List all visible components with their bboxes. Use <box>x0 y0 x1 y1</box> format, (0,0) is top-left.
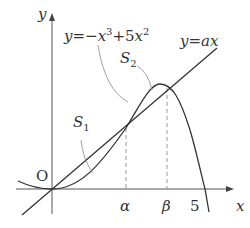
line-y-ax <box>22 48 217 215</box>
y-axis-arrow-icon <box>49 13 55 21</box>
tick-label-alpha: α <box>120 197 130 215</box>
tick-label-beta: β <box>161 197 171 215</box>
graph-diagram: y x O y=−x3+5x2 y=ax S1 S2 α β 5 <box>0 0 250 228</box>
y-axis-label: y <box>37 5 47 23</box>
region-label-s1: S1 <box>73 113 90 133</box>
region-label-s2: S2 <box>120 49 137 69</box>
x-axis-label: x <box>236 197 245 215</box>
curve-equation-label: y=−x3+5x2 <box>63 26 149 45</box>
cubic-curve <box>18 84 209 212</box>
origin-label: O <box>36 167 48 185</box>
x-axis-arrow-icon <box>226 186 234 192</box>
tick-label-5: 5 <box>190 197 200 215</box>
line-equation-label: y=ax <box>179 32 219 50</box>
s2-leader <box>137 66 152 90</box>
